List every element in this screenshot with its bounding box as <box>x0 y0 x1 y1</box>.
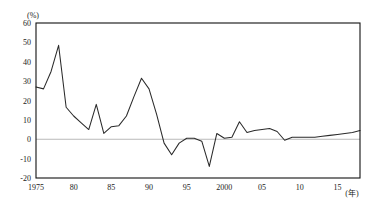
x-tick-label: 85 <box>107 183 115 192</box>
x-tick-label: 05 <box>258 183 266 192</box>
y-tick-label: 30 <box>23 77 31 86</box>
y-tick-label: 10 <box>23 116 31 125</box>
y-tick-label: -20 <box>20 174 31 183</box>
x-tick-label: 15 <box>333 183 341 192</box>
x-tick-label: 95 <box>183 183 191 192</box>
y-tick-label: -10 <box>20 155 31 164</box>
x-tick-label: 2000 <box>216 183 232 192</box>
line-chart: (%) 6050403020100-10-20 1975808590952000… <box>0 0 375 211</box>
x-tick-label: 10 <box>296 183 304 192</box>
chart-container: (%) 6050403020100-10-20 1975808590952000… <box>0 0 375 211</box>
y-tick-label: 60 <box>23 19 31 28</box>
y-tick-label: 20 <box>23 97 31 106</box>
chart-background <box>0 0 375 211</box>
x-tick-label: 80 <box>70 183 78 192</box>
x-tick-label: 90 <box>145 183 153 192</box>
y-tick-label: 40 <box>23 58 31 67</box>
y-tick-label: 50 <box>23 38 31 47</box>
y-tick-label: 0 <box>27 135 31 144</box>
x-axis-unit-label: (年) <box>345 188 359 198</box>
x-tick-label: 1975 <box>28 183 44 192</box>
